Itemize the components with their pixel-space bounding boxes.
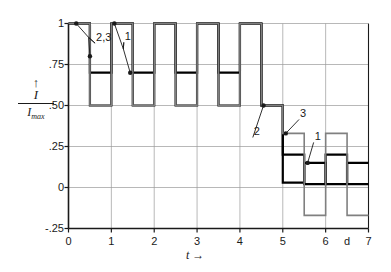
x-tick-label: 2 [139, 235, 169, 247]
x-tick-label: 1 [96, 235, 126, 247]
x-tick-label: 5 [268, 235, 298, 247]
x-tick-label: 3 [182, 235, 212, 247]
annotation-label-2-3: 2,3 [96, 31, 111, 43]
x-axis-label: t → [186, 248, 204, 263]
annotation-marker [261, 103, 265, 107]
data-series [69, 24, 369, 216]
y-tick-label: -.25 [22, 222, 64, 234]
leader-line [114, 24, 123, 49]
annotation-marker [305, 161, 309, 165]
series-line-3 [69, 24, 369, 216]
x-axis-unit-label: d [332, 235, 362, 247]
annotation-marker [112, 21, 116, 25]
y-tick-label: .75 [22, 58, 64, 70]
x-axis-label-text: t [186, 248, 189, 262]
annotation-marker [284, 131, 288, 135]
annotation-label-2: 2 [254, 125, 260, 137]
annotation-label-1: 1 [315, 130, 321, 142]
y-tick-label: .25 [22, 140, 64, 152]
y-axis-numerator: I [14, 88, 58, 103]
axis-ticks [65, 24, 369, 233]
x-axis-arrow-icon: → [192, 248, 204, 262]
annotation-label-3: 3 [300, 107, 306, 119]
y-tick-label: 1 [22, 17, 64, 29]
x-tick-label: 0 [54, 235, 84, 247]
annotation-marker [74, 21, 78, 25]
annotation-marker [128, 71, 132, 75]
leader-line [286, 119, 299, 133]
leader-line [308, 142, 314, 163]
leader-line [123, 42, 130, 72]
chart-figure: 1.75.50.250-.2501234567d 2,31231 ↑ I Ima… [0, 0, 391, 272]
x-tick-label: 4 [225, 235, 255, 247]
y-axis-denominator: Imax [14, 104, 58, 124]
y-tick-label: 0 [22, 181, 64, 193]
annotation-marker [88, 54, 92, 58]
annotation-label-1: 1 [125, 30, 131, 42]
y-axis-label: ↑ I Imax [14, 78, 58, 124]
